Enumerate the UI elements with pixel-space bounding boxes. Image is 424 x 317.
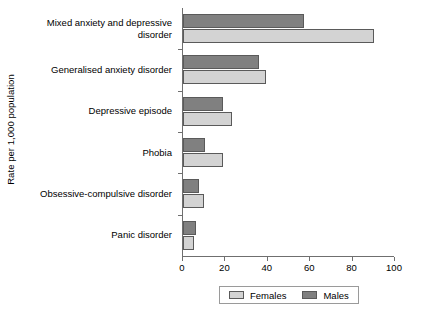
- chart-legend: FemalesMales: [219, 286, 359, 304]
- x-axis-tick: [309, 257, 310, 261]
- bar-males: [183, 14, 304, 28]
- y-axis-title: Rate per 1,000 population: [0, 0, 20, 258]
- x-axis-tick-label: 100: [386, 262, 402, 273]
- x-axis-tick: [267, 257, 268, 261]
- category-label-line: Mixed anxiety and depressive: [20, 17, 172, 30]
- bar-males: [183, 138, 205, 152]
- bar-females: [183, 70, 266, 84]
- x-axis-tick-label: 20: [219, 262, 230, 273]
- legend-entry: Males: [302, 290, 348, 301]
- y-axis-tick: [178, 215, 182, 216]
- category-label: Generalised anxiety disorder: [20, 64, 172, 77]
- category-label: Depressive episode: [20, 105, 172, 118]
- y-axis-tick: [178, 91, 182, 92]
- x-axis-tick: [352, 257, 353, 261]
- category-label-line: Panic disorder: [20, 229, 172, 242]
- category-label: Mixed anxiety and depressivedisorder: [20, 17, 172, 42]
- bar-females: [183, 236, 194, 250]
- bar-group: [183, 14, 394, 44]
- category-label-line: Obsessive-compulsive disorder: [20, 188, 172, 201]
- legend-swatch: [229, 291, 244, 299]
- bar-males: [183, 97, 223, 111]
- bar-females: [183, 112, 232, 126]
- category-label-line: Phobia: [20, 147, 172, 160]
- legend-label: Males: [323, 290, 348, 301]
- bar-chart: Rate per 1,000 population Mixed anxiety …: [0, 0, 424, 317]
- category-axis-labels: Mixed anxiety and depressivedisorderGene…: [20, 8, 177, 256]
- legend-entry: Females: [229, 290, 286, 301]
- legend-swatch: [302, 291, 317, 299]
- plot-area: [182, 8, 394, 256]
- category-label: Panic disorder: [20, 229, 172, 242]
- y-axis-title-text: Rate per 1,000 population: [5, 74, 16, 185]
- bar-group: [183, 55, 394, 85]
- bar-group: [183, 138, 394, 168]
- y-axis-tick: [178, 49, 182, 50]
- y-axis-tick: [178, 173, 182, 174]
- bar-group: [183, 179, 394, 209]
- x-axis-tick: [224, 257, 225, 261]
- category-label: Phobia: [20, 147, 172, 160]
- x-axis-tick-label: 60: [304, 262, 315, 273]
- category-label-line: Generalised anxiety disorder: [20, 64, 172, 77]
- bar-males: [183, 179, 199, 193]
- bar-males: [183, 55, 259, 69]
- x-axis-tick: [182, 257, 183, 261]
- bar-females: [183, 29, 374, 43]
- x-axis-tick-label: 40: [262, 262, 273, 273]
- category-label: Obsessive-compulsive disorder: [20, 188, 172, 201]
- legend-label: Females: [250, 290, 286, 301]
- bar-females: [183, 194, 204, 208]
- bar-group: [183, 97, 394, 127]
- bar-females: [183, 153, 223, 167]
- x-axis-tick: [394, 257, 395, 261]
- bar-males: [183, 221, 196, 235]
- category-label-line: disorder: [20, 29, 172, 42]
- x-axis-tick-label: 0: [179, 262, 184, 273]
- category-label-line: Depressive episode: [20, 105, 172, 118]
- y-axis-line: [182, 8, 183, 256]
- x-axis-tick-labels: 020406080100: [182, 262, 394, 276]
- bar-group: [183, 221, 394, 251]
- x-axis-tick-label: 80: [346, 262, 357, 273]
- y-axis-tick: [178, 132, 182, 133]
